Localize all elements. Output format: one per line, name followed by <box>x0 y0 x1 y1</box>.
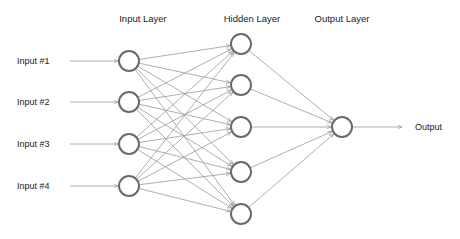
input-label-3: Input #3 <box>17 139 50 149</box>
hidden-output-connection <box>250 131 332 167</box>
input-node <box>119 92 139 112</box>
input-label-2: Input #2 <box>17 97 50 107</box>
hidden-layer-label: Hidden Layer <box>224 13 281 24</box>
hidden-output-connection <box>249 50 334 120</box>
input-node <box>119 176 139 196</box>
input-node <box>119 51 139 71</box>
output-layer-label: Output Layer <box>315 13 370 24</box>
input-label-1: Input #1 <box>17 56 50 66</box>
input-hidden-connection <box>139 46 230 60</box>
input-label-4: Input #4 <box>17 181 50 191</box>
input-hidden-connection <box>138 90 231 139</box>
hidden-output-connection <box>249 134 334 207</box>
output-node <box>332 117 352 137</box>
input-node <box>119 134 139 154</box>
input-layer-label: Input Layer <box>119 13 167 24</box>
hidden-node <box>231 162 251 182</box>
input-hidden-connection <box>136 51 232 137</box>
hidden-node <box>231 75 251 95</box>
hidden-node <box>231 117 251 137</box>
input-hidden-connection <box>139 146 231 169</box>
input-hidden-connection <box>138 49 231 97</box>
neural-network-diagram: Input LayerHidden LayerOutput Layer Inpu… <box>0 0 460 239</box>
hidden-output-connection <box>250 89 332 123</box>
input-hidden-connection <box>139 188 231 211</box>
hidden-node <box>231 34 251 54</box>
output-label: Output <box>415 122 443 132</box>
hidden-node <box>231 204 251 224</box>
input-hidden-connection <box>139 173 230 184</box>
